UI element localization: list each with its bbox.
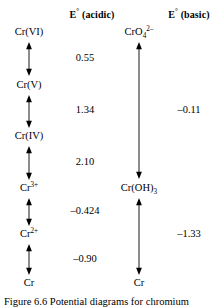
- species-label-chromium-hydroxide-basic: Cr(OH)3: [121, 182, 157, 193]
- species-label-cr6-acidic: Cr(VI): [15, 26, 44, 37]
- latimer-diagram: E° (acidic) E° (basic) Cr(VI) Cr(V) Cr(I…: [0, 0, 223, 307]
- column-header-basic: E° (basic): [168, 9, 209, 20]
- potential-basic-hydroxide-cr-metal: –1.33: [177, 228, 201, 239]
- potential-acidic-cr4-cr3plus: 2.10: [76, 156, 94, 167]
- arrow-hydroxide-cr-metal: [135, 198, 144, 275]
- species-label-cr5-acidic: Cr(V): [16, 79, 41, 90]
- potential-basic-chromate-hydroxide: –0.11: [177, 104, 200, 115]
- species-label-cr3plus-acidic: Cr3+: [20, 182, 38, 193]
- potential-acidic-cr2plus-cr-metal: –0.90: [73, 253, 97, 264]
- species-label-cr-metal-acidic: Cr: [24, 277, 35, 288]
- species-label-chromate-basic: CrO42–: [125, 26, 154, 37]
- species-label-cr2plus-acidic: Cr2+: [20, 228, 38, 239]
- column-header-acidic-text: E° (acidic): [70, 9, 115, 20]
- arrow-cr6-cr5: [25, 42, 34, 76]
- arrow-cr3plus-cr2plus: [25, 198, 34, 226]
- species-label-cr4-acidic: Cr(IV): [15, 130, 44, 141]
- potential-acidic-cr6-cr5: 0.55: [76, 52, 94, 63]
- column-header-basic-text: E° (basic): [168, 9, 209, 20]
- potential-acidic-cr3plus-cr2plus: –0.424: [71, 205, 100, 216]
- arrow-cr5-cr4: [25, 95, 34, 128]
- species-label-cr-metal-basic: Cr: [134, 277, 145, 288]
- potential-acidic-cr5-cr4: 1.34: [76, 104, 94, 115]
- arrow-cr4-cr3plus: [25, 146, 34, 180]
- arrow-chromate-hydroxide: [135, 42, 144, 179]
- arrow-cr2plus-cr-metal: [25, 244, 34, 275]
- column-header-acidic: E° (acidic): [70, 9, 115, 20]
- figure-caption: Figure 6.6 Potential diagrams for chromi…: [4, 296, 221, 307]
